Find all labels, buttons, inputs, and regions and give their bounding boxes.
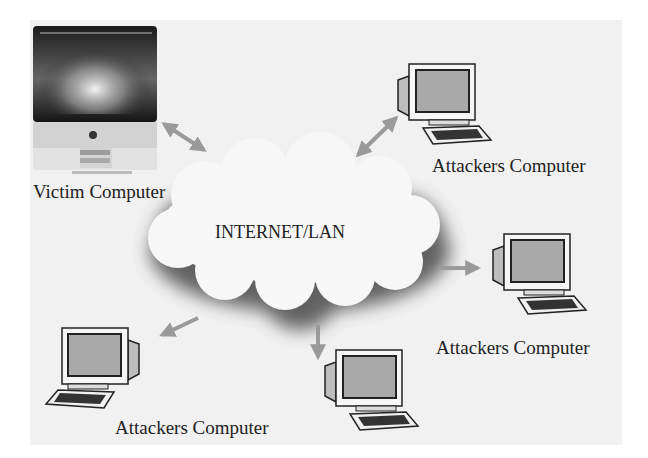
attacker-top-right-label: Attackers Computer [432,155,586,177]
attacker-bottom-left-label: Attackers Computer [115,417,269,439]
attacker-computer-icon [493,234,586,314]
attacker-computer-icon [325,350,418,430]
network-diagram: INTERNET/LAN Victim Computer Attackers C… [0,0,648,458]
victim-computer-icon [33,26,157,174]
arrow-victim-cloud [164,124,204,150]
attacker-right-label: Attackers Computer [436,337,590,359]
attacker-computer-icon [398,64,491,144]
victim-computer-label: Victim Computer [33,181,165,203]
attacker-computer-icon [46,328,139,408]
arrow-cloud-attacker-top-right [358,118,396,155]
arrow-cloud-attacker-bottom-left [162,318,198,335]
cloud-label: INTERNET/LAN [215,222,345,243]
